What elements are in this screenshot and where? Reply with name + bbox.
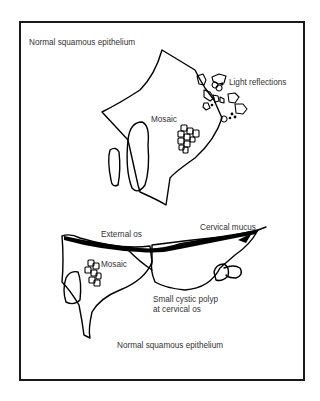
external-os-label: External os: [101, 230, 142, 240]
upper-cervix-outline: [102, 50, 222, 205]
cervical-mucus-label: Cervical mucus: [200, 223, 256, 233]
polyp-label-line1: Small cystic polyp: [153, 295, 218, 305]
upper-lobe-large: [127, 122, 148, 191]
polyp-label-line2: at cervical os: [153, 305, 201, 315]
upper-normal-epithelium-label: Normal squamous epithelium: [29, 38, 135, 48]
lower-mosaic-label: Mosaic: [101, 260, 127, 270]
upper-lobe-small: [109, 148, 120, 185]
upper-mosaic: [178, 125, 199, 153]
polyp-tip: [224, 266, 241, 278]
lower-normal-epithelium-label: Normal squamous epithelium: [117, 341, 223, 351]
os-divider: [128, 250, 152, 270]
lower-mosaic: [85, 260, 101, 286]
light-reflections-label: Light reflections: [229, 78, 286, 88]
upper-mosaic-label: Mosaic: [151, 115, 177, 125]
